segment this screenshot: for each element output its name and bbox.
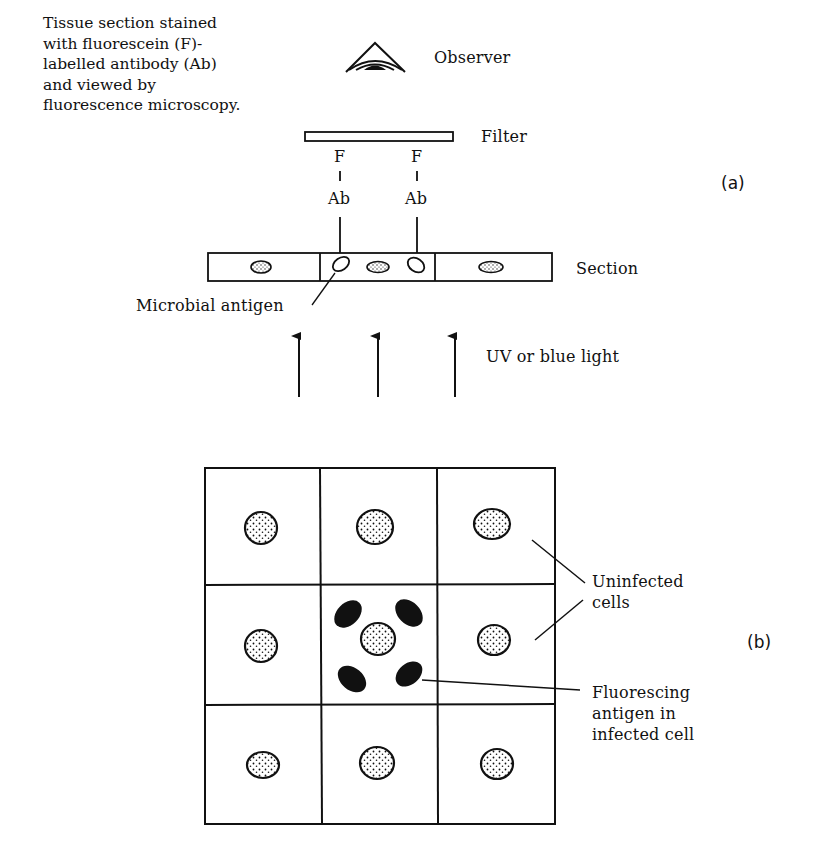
uninfected-label-line: cells xyxy=(592,593,630,612)
nucleus xyxy=(479,262,503,273)
tissue-section xyxy=(208,253,552,281)
microbial-antigen-label: Microbial antigen xyxy=(136,296,284,315)
filter-bar xyxy=(305,132,453,141)
fluorescing-label-line: Fluorescing xyxy=(592,683,690,702)
panel-a-description: Tissue section stained with fluorescein … xyxy=(43,13,303,116)
panel-b: Uninfected cells (b) Fluorescing antigen… xyxy=(205,468,771,824)
antibody-label: Ab xyxy=(404,189,427,208)
description-line: and viewed by xyxy=(43,75,303,96)
diagram-canvas: Observer Filter F Ab F Ab (a) xyxy=(0,0,821,848)
nucleus xyxy=(357,510,393,544)
panel-a-tag: (a) xyxy=(721,173,745,193)
immunofluorescence-figure: Tissue section stained with fluorescein … xyxy=(0,0,821,848)
description-line: with fluorescein (F)- xyxy=(43,34,303,55)
section-label: Section xyxy=(576,259,638,278)
description-line: fluorescence microscopy. xyxy=(43,95,303,116)
observer-label: Observer xyxy=(434,48,511,67)
uninfected-label-line: Uninfected xyxy=(592,572,684,591)
nucleus xyxy=(245,512,277,544)
nucleus xyxy=(474,509,510,539)
nucleus xyxy=(360,747,394,779)
nucleus xyxy=(251,261,271,273)
nucleus xyxy=(247,752,279,778)
nucleus xyxy=(361,623,395,655)
light-arrows xyxy=(299,336,455,397)
fluorescein-label: F xyxy=(411,147,422,166)
description-line: labelled antibody (Ab) xyxy=(43,54,303,75)
fluorescein-label: F xyxy=(334,147,345,166)
panel-b-tag: (b) xyxy=(747,632,771,652)
description-line: Tissue section stained xyxy=(43,13,303,34)
antibody-probe: F Ab xyxy=(327,147,350,253)
light-source-label: UV or blue light xyxy=(486,347,619,366)
filter-label: Filter xyxy=(481,127,527,146)
nucleus xyxy=(245,630,277,662)
fluorescing-label-line: infected cell xyxy=(592,725,694,744)
antibody-probe: F Ab xyxy=(404,147,427,253)
nucleus xyxy=(478,625,510,655)
antibody-label: Ab xyxy=(327,189,350,208)
fluorescing-label-line: antigen in xyxy=(592,704,676,723)
eye-icon xyxy=(346,43,405,72)
nucleus xyxy=(481,749,513,779)
nucleus xyxy=(367,262,389,273)
